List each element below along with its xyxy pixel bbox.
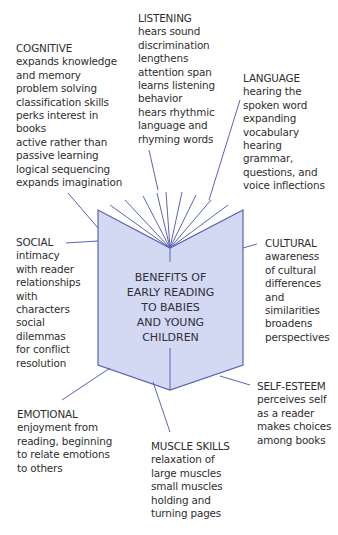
category-item: hearing [243,139,325,152]
category-cultural: CULTURAL awareness of cultural differenc… [265,237,330,344]
category-item: problem solving [16,82,122,95]
category-item: perks interest in [16,109,122,122]
connector-emotional [62,368,110,400]
connector-cultural [243,244,257,248]
category-item: books [16,122,122,135]
center-title-line: EARLY READING [98,285,243,300]
center-title-line: TO BABIES [98,300,243,315]
category-item: hears sound [138,25,215,38]
category-item: enjoyment from [17,421,112,434]
category-item: relaxation of [151,453,230,466]
center-title-line: CHILDREN [98,330,243,345]
category-title: MUSCLE SKILLS [151,440,230,453]
category-item: logical sequencing [16,163,122,176]
category-item: for conflict [16,343,81,356]
category-item: characters [16,303,81,316]
connector-cognitive [68,193,98,228]
center-title: BENEFITS OF EARLY READING TO BABIES AND … [98,270,243,345]
category-item: learns listening [138,79,215,92]
category-item: expanding [243,112,325,125]
category-item: classification skills [16,96,122,109]
category-item: reading, beginning [17,435,112,448]
category-item: with [16,290,81,303]
category-item: hearing the [243,85,325,98]
category-item: similarities [265,304,330,317]
category-item: passive learning [16,149,122,162]
category-title: SOCIAL [16,236,81,249]
category-item: discrimination [138,39,215,52]
category-item: large muscles [151,467,230,480]
category-item: intimacy [16,249,81,262]
category-item: small muscles [151,480,230,493]
category-item: to relate emotions [17,448,112,461]
category-item: makes choices [257,420,331,433]
category-item: attention span [138,66,215,79]
connector-self-esteem [220,376,250,385]
category-listening: LISTENING hears sound discrimination len… [138,12,215,146]
category-item: awareness [265,250,330,263]
category-item: perceives self [257,393,331,406]
category-title: EMOTIONAL [17,408,112,421]
category-item: to others [17,462,112,475]
category-item: lengthens [138,52,215,65]
category-item: questions, and [243,166,325,179]
category-item: and memory [16,69,122,82]
category-item: holding and [151,494,230,507]
category-item: vocabulary [243,126,325,139]
category-emotional: EMOTIONAL enjoyment from reading, beginn… [17,408,112,475]
category-muscle-skills: MUSCLE SKILLS relaxation of large muscle… [151,440,230,520]
category-item: with reader [16,263,81,276]
center-title-line: AND YOUNG [98,315,243,330]
category-item: grammar, [243,152,325,165]
category-item: dilemmas [16,330,81,343]
category-item: among books [257,434,331,447]
category-self-esteem: SELF-ESTEEM perceives self as a reader m… [257,380,331,447]
category-item: hears rhythmic [138,106,215,119]
category-item: social [16,316,81,329]
category-item: voice inflections [243,179,325,192]
connector-listening [149,150,158,190]
category-item: rhyming words [138,133,215,146]
category-item: language and [138,119,215,132]
category-item: relationships [16,276,81,289]
category-title: LISTENING [138,12,215,25]
category-item: turning pages [151,507,230,520]
category-item: spoken word [243,99,325,112]
center-title-line: BENEFITS OF [98,270,243,285]
category-title: SELF-ESTEEM [257,380,331,393]
category-item: broadens [265,317,330,330]
category-item: expands knowledge [16,55,122,68]
category-item: perspectives [265,331,330,344]
category-item: as a reader [257,407,331,420]
category-item: differences [265,277,330,290]
category-item: behavior [138,92,215,105]
category-item: resolution [16,357,81,370]
category-item: expands imagination [16,176,122,189]
category-item: of cultural [265,264,330,277]
category-item: active rather than [16,136,122,149]
category-title: CULTURAL [265,237,330,250]
benefits-diagram: BENEFITS OF EARLY READING TO BABIES AND … [0,0,338,535]
category-item: and [265,291,330,304]
category-language: LANGUAGE hearing the spoken word expandi… [243,72,325,193]
category-title: LANGUAGE [243,72,325,85]
category-title: COGNITIVE [16,42,122,55]
category-cognitive: COGNITIVE expands knowledge and memory p… [16,42,122,189]
category-social: SOCIAL intimacy with reader relationship… [16,236,81,370]
